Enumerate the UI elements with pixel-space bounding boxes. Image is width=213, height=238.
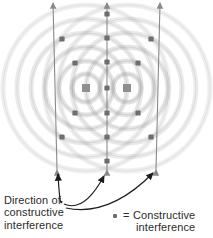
leader-to-center — [64, 176, 104, 206]
interference-dot-central-vertical-5 — [104, 134, 109, 139]
interference-dot-left-diagonal-1 — [72, 60, 77, 65]
interference-dot-central-vertical-4 — [104, 110, 109, 115]
interference-dot-right-diagonal-3 — [148, 134, 153, 139]
source-left-marker — [82, 84, 90, 92]
legend-label-line2: interference — [133, 221, 195, 233]
interference-dot-central-vertical-2 — [104, 59, 109, 64]
interference-dot-central-vertical-1 — [104, 35, 109, 40]
legend-label-line1: Constructive — [133, 209, 195, 221]
interference-dot-left-diagonal-0 — [59, 36, 64, 41]
interference-diagram: Direction of constructive interference =… — [0, 0, 213, 238]
interference-dot-central-vertical-0 — [104, 11, 109, 16]
interference-dot-left-diagonal-2 — [72, 110, 77, 115]
interference-dot-central-vertical-6 — [104, 158, 109, 163]
direction-label-line2: constructive — [4, 206, 64, 218]
interference-dot-central-vertical-3 — [104, 85, 109, 90]
interference-dot-right-diagonal-2 — [135, 110, 140, 115]
direction-label-line1: Direction of — [4, 194, 64, 206]
leader-arrows — [58, 173, 153, 210]
direction-label-line3: interference — [4, 219, 64, 231]
legend-dot-icon — [113, 214, 117, 218]
direction-label: Direction of constructive interference — [4, 194, 64, 231]
legend-label: Constructive interference — [133, 209, 195, 234]
interference-dot-right-diagonal-1 — [135, 60, 140, 65]
legend-equals-sign: = — [123, 209, 129, 221]
source-right-marker — [123, 84, 131, 92]
interference-dot-left-diagonal-3 — [59, 134, 64, 139]
interference-dot-right-diagonal-0 — [148, 36, 153, 41]
